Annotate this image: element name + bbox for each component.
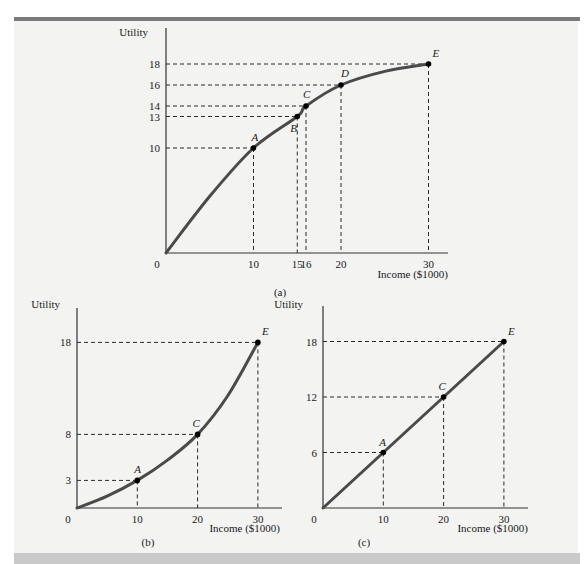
x-tick-label: 16 [301, 258, 313, 270]
point-C [303, 103, 309, 109]
point-A [381, 450, 387, 456]
point-A [251, 145, 257, 151]
point-B [294, 114, 300, 120]
y-tick-label: 14 [149, 100, 161, 112]
y-tick-label: 8 [66, 428, 72, 440]
panel-b: ACE38180102030UtilityIncome ($1000)(b) [31, 298, 282, 549]
point-label-E: E [261, 325, 269, 337]
point-label-E: E [432, 47, 440, 59]
point-D [338, 82, 344, 88]
y-tick-label: 3 [66, 474, 72, 486]
point-C [195, 432, 201, 438]
x-axis-label: Income ($1000) [377, 268, 448, 281]
point-E [501, 339, 507, 345]
x-tick-label: 0 [65, 513, 71, 525]
point-label-A: A [378, 436, 386, 448]
point-label-B: B [290, 122, 297, 134]
y-axis-label: Utility [31, 298, 60, 310]
point-A [135, 478, 141, 484]
point-label-C: C [439, 380, 447, 392]
x-axis-label: Income ($1000) [457, 522, 528, 535]
y-tick-label: 16 [149, 79, 161, 91]
y-tick-label: 18 [60, 336, 72, 348]
y-tick-label: 10 [149, 142, 161, 154]
y-axis-label: Utility [274, 298, 303, 310]
point-label-C: C [193, 417, 201, 429]
x-tick-label: 0 [311, 513, 317, 525]
x-tick-label: 20 [336, 258, 348, 270]
point-label-A: A [251, 131, 259, 143]
x-tick-label: 10 [378, 513, 390, 525]
x-tick-label: 20 [438, 513, 450, 525]
panel-c: ACE612180102030UtilityIncome ($1000)(c) [274, 298, 528, 549]
point-label-D: D [340, 67, 349, 79]
point-label-A: A [133, 463, 141, 475]
x-tick-label: 20 [192, 513, 204, 525]
utility-curve [77, 342, 258, 508]
x-tick-label: 10 [132, 513, 144, 525]
y-axis-label: Utility [119, 26, 148, 38]
point-E [426, 61, 432, 67]
y-tick-label: 13 [149, 111, 161, 123]
point-label-E: E [507, 325, 515, 337]
panel-caption: (c) [358, 536, 371, 549]
point-E [255, 340, 261, 346]
x-tick-label: 10 [248, 258, 260, 270]
utility-functions-figure: ABCDE101314161801015162030UtilityIncome … [0, 0, 584, 564]
point-label-C: C [303, 88, 311, 100]
panel-caption: (b) [142, 536, 155, 549]
x-tick-label: 0 [154, 258, 160, 270]
panel-a: ABCDE101314161801015162030UtilityIncome … [119, 26, 448, 299]
y-tick-label: 18 [149, 58, 161, 70]
y-tick-label: 12 [306, 391, 317, 403]
y-tick-label: 18 [306, 336, 318, 348]
point-C [441, 394, 447, 400]
x-axis-label: Income ($1000) [209, 522, 280, 535]
y-tick-label: 6 [312, 447, 318, 459]
utility-curve [323, 342, 504, 509]
